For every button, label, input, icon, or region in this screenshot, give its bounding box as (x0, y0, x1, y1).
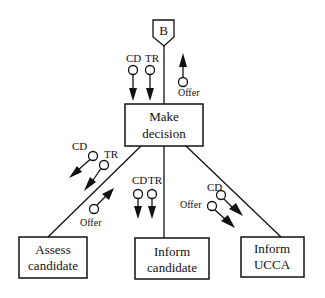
arrow-down-icon (148, 206, 156, 219)
arrow-shaft (224, 199, 233, 208)
data-couple-circle-icon (100, 161, 109, 170)
module-label-line2: candidate (28, 258, 78, 273)
arrow-down-icon (129, 88, 137, 101)
connector-label: B (159, 23, 168, 38)
couple-label-cd: CD (132, 174, 147, 186)
couple-label-offer: Offer (180, 199, 202, 210)
couple-label-tr: TR (148, 174, 163, 186)
structure-chart: B CD TR Offer Make decision CD TR (0, 0, 325, 298)
data-couple-circle-icon (179, 78, 188, 87)
arrow-down-icon (146, 88, 154, 101)
couple-label-cd: CD (72, 140, 87, 152)
couple-label-offer: Offer (178, 87, 200, 98)
couple-label-tr: TR (145, 52, 160, 64)
offpage-connector-b: B (153, 20, 174, 46)
couple-label-offer: Offer (80, 217, 102, 228)
arrow-down-icon (134, 206, 142, 219)
couple-label-cd: CD (126, 52, 141, 64)
couple-label-tr: TR (104, 148, 119, 160)
data-couple-circle-icon (217, 191, 226, 200)
data-couple-circle-icon (208, 202, 217, 211)
data-couple-circle-icon (90, 205, 99, 214)
module-label-line1: Assess (35, 242, 70, 257)
couples-center: CD TR (132, 174, 163, 219)
data-couple-circle-icon (146, 66, 155, 75)
call-line-right (186, 146, 281, 237)
arrow-shaft (97, 196, 106, 205)
module-label-line2: UCCA (254, 257, 291, 272)
data-couple-circle-icon (89, 152, 98, 161)
couples-left: CD TR Offer (69, 140, 119, 228)
module-inform-candidate: Inform candidate (135, 238, 209, 279)
module-label-line2: candidate (147, 260, 197, 275)
module-inform-ucca: Inform UCCA (241, 237, 304, 277)
couples-right: CD Offer (180, 181, 243, 228)
arrow-down-right-icon (229, 203, 243, 216)
module-assess-candidate: Assess candidate (19, 237, 87, 278)
module-make-decision: Make decision (125, 104, 203, 146)
data-couple-circle-icon (129, 66, 138, 75)
couples-top: CD TR Offer (126, 52, 200, 101)
data-couple-circle-icon (134, 190, 143, 199)
arrow-shaft (215, 210, 225, 219)
module-label-line1: Make (149, 109, 179, 124)
module-label-line1: Inform (154, 244, 190, 259)
data-couple-circle-icon (148, 190, 157, 199)
arrow-up-icon (179, 53, 187, 67)
module-label-line2: decision (142, 126, 186, 141)
module-label-line1: Inform (254, 241, 290, 256)
